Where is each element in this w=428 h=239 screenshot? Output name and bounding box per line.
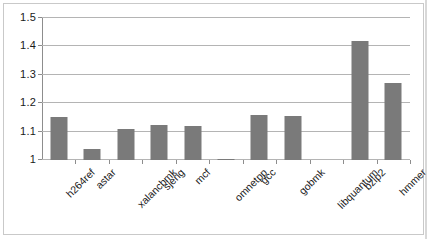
x-axis-label-slot: hmmer [377,164,410,236]
plot-area: 11.11.21.31.41.5 [42,18,410,160]
x-axis-label-slot: sjeng [142,164,175,236]
bar-slot [75,18,108,160]
bar [284,116,301,160]
y-axis-tick-label: 1.1 [20,125,36,137]
bar [385,83,402,160]
x-axis-label-slot: h264ref [42,164,75,236]
x-axis-label-slot: mcf [176,164,209,236]
x-axis-label-slot: bzip2 [343,164,376,236]
x-axis-label-slot: gcc [243,164,276,236]
y-axis-tick-label: 1.3 [20,68,36,80]
bar [351,41,368,160]
x-axis-labels-group: h264refastarxalancbmksjengmcfomnetppgccg… [42,164,410,236]
bars-group [42,18,410,160]
y-axis-tick-label: 1.4 [20,39,36,51]
bar [217,159,234,160]
bar-slot [42,18,75,160]
x-axis-label-slot: astar [75,164,108,236]
x-axis-label-slot: libquantum [310,164,343,236]
figure-border-right-edge [425,0,427,239]
y-axis-tick-label: 1.5 [20,11,36,23]
bar-slot [142,18,175,160]
bar-slot [377,18,410,160]
bar [117,129,134,160]
bar-slot [109,18,142,160]
bar-slot [209,18,242,160]
x-axis-label-hmmer: hmmer [397,166,428,198]
y-axis-tick-label: 1.2 [20,96,36,108]
bar [151,125,168,161]
bar-slot [310,18,343,160]
bar-slot [276,18,309,160]
x-axis-label-slot: omnetpp [209,164,242,236]
bar-slot [176,18,209,160]
bar-slot [343,18,376,160]
x-axis-label-slot: gobmk [276,164,309,236]
bar [50,117,67,160]
bar-slot [243,18,276,160]
bar [251,115,268,160]
x-axis-label-slot: xalancbmk [109,164,142,236]
x-axis-tick [410,160,411,164]
bar [84,149,101,160]
bar [184,126,201,160]
bar-chart-figure: 11.11.21.31.41.5 h264refastarxalancbmksj… [0,0,428,239]
y-axis-tick-label: 1 [30,153,36,165]
